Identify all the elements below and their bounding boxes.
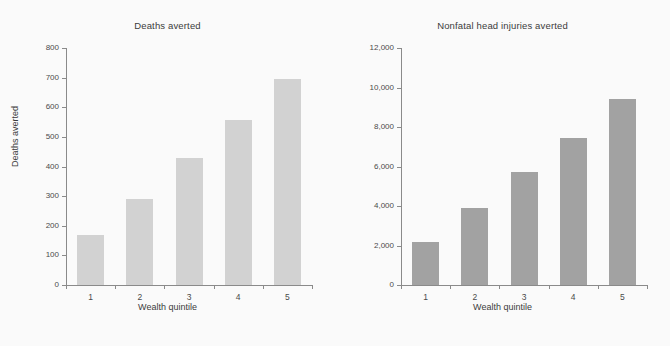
- y-axis-tick-left: [62, 107, 66, 108]
- y-axis-tick-label-right: 4,000: [374, 202, 394, 210]
- y-axis-label-left: Deaths averted: [10, 106, 20, 167]
- y-axis-tick-right: [397, 167, 401, 168]
- x-axis-tick-right: [647, 285, 648, 289]
- y-axis-tick-label-left: 500: [46, 133, 59, 141]
- x-axis-tick-right: [549, 285, 550, 289]
- x-axis-tick-left: [312, 285, 313, 289]
- x-axis-tick-left: [115, 285, 116, 289]
- bar-right-quintile-2: [461, 208, 488, 285]
- y-axis-tick-label-right: 6,000: [374, 163, 394, 171]
- x-axis-tick-right: [499, 285, 500, 289]
- y-axis-tick-left: [62, 78, 66, 79]
- y-axis-tick-label-left: 100: [46, 251, 59, 259]
- y-axis-tick-right: [397, 206, 401, 207]
- x-axis-tick-label-left: 5: [285, 293, 290, 302]
- y-axis-tick-label-left: 300: [46, 192, 59, 200]
- chart-panel-deaths-averted: Deaths averted 0100200300400500600700800…: [0, 0, 335, 346]
- x-axis-tick-left: [66, 285, 67, 289]
- x-axis-line-left: [66, 285, 312, 286]
- bar-right-quintile-5: [609, 99, 636, 285]
- y-axis-tick-left: [62, 137, 66, 138]
- plot-area-right: 02,0004,0006,0008,00010,00012,00012345: [401, 48, 647, 285]
- y-axis-tick-right: [397, 88, 401, 89]
- y-axis-tick-label-left: 400: [46, 163, 59, 171]
- y-axis-line-left: [66, 48, 67, 285]
- plot-area-left: 010020030040050060070080012345: [66, 48, 312, 285]
- y-axis-tick-right: [397, 127, 401, 128]
- x-axis-tick-label-right: 4: [571, 293, 576, 302]
- y-axis-tick-label-right: 12,000: [370, 44, 394, 52]
- x-axis-label-left: Wealth quintile: [0, 302, 335, 312]
- y-axis-tick-label-left: 800: [46, 44, 59, 52]
- x-axis-tick-left: [164, 285, 165, 289]
- x-axis-tick-label-left: 2: [137, 293, 142, 302]
- figure-two-panel-bar-charts: Deaths averted 0100200300400500600700800…: [0, 0, 670, 346]
- chart-panel-nonfatal-head-injuries-averted: Nonfatal head injuries averted 02,0004,0…: [335, 0, 670, 346]
- bar-left-quintile-5: [274, 79, 301, 285]
- y-axis-tick-label-left: 200: [46, 222, 59, 230]
- y-axis-tick-label-right: 8,000: [374, 123, 394, 131]
- x-axis-tick-left: [214, 285, 215, 289]
- y-axis-tick-label-left: 700: [46, 74, 59, 82]
- chart-title-right: Nonfatal head injuries averted: [335, 20, 670, 31]
- bar-left-quintile-4: [225, 120, 252, 285]
- x-axis-tick-right: [401, 285, 402, 289]
- y-axis-tick-label-right: 2,000: [374, 242, 394, 250]
- x-axis-label-right: Wealth quintile: [335, 302, 670, 312]
- y-axis-tick-right: [397, 246, 401, 247]
- y-axis-tick-left: [62, 226, 66, 227]
- y-axis-tick-left: [62, 167, 66, 168]
- y-axis-tick-left: [62, 48, 66, 49]
- y-axis-tick-label-left: 0: [55, 281, 59, 289]
- y-axis-tick-label-right: 0: [390, 281, 394, 289]
- bar-right-quintile-4: [560, 138, 587, 285]
- bar-left-quintile-3: [176, 158, 203, 285]
- bar-right-quintile-1: [412, 242, 439, 285]
- x-axis-tick-label-left: 3: [187, 293, 192, 302]
- x-axis-tick-right: [598, 285, 599, 289]
- x-axis-tick-right: [450, 285, 451, 289]
- bar-left-quintile-1: [77, 235, 104, 285]
- x-axis-tick-label-left: 1: [88, 293, 93, 302]
- y-axis-tick-label-left: 600: [46, 103, 59, 111]
- x-axis-tick-label-right: 1: [423, 293, 428, 302]
- x-axis-tick-label-right: 3: [522, 293, 527, 302]
- chart-title-left: Deaths averted: [0, 20, 335, 31]
- y-axis-line-right: [401, 48, 402, 285]
- y-axis-tick-left: [62, 255, 66, 256]
- x-axis-tick-label-left: 4: [236, 293, 241, 302]
- x-axis-tick-label-right: 2: [472, 293, 477, 302]
- y-axis-tick-label-right: 10,000: [370, 84, 394, 92]
- bar-left-quintile-2: [126, 199, 153, 285]
- x-axis-tick-left: [263, 285, 264, 289]
- y-axis-tick-right: [397, 48, 401, 49]
- y-axis-tick-left: [62, 196, 66, 197]
- x-axis-line-right: [401, 285, 647, 286]
- x-axis-tick-label-right: 5: [620, 293, 625, 302]
- bar-right-quintile-3: [511, 172, 538, 285]
